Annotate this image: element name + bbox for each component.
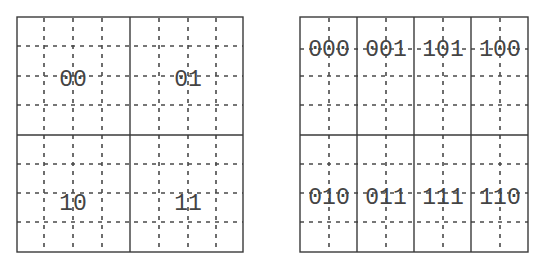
left-cell-label: 11 xyxy=(174,191,202,217)
left-cell-label: 10 xyxy=(59,191,87,217)
diagram-canvas: 00 01 10 11 000 001 101 100 010 011 111 xyxy=(0,0,540,268)
right-cell-label: 001 xyxy=(365,37,406,63)
right-cell-label: 110 xyxy=(479,185,520,211)
left-map: 00 01 10 11 xyxy=(17,17,243,252)
right-cell-label: 010 xyxy=(308,185,349,211)
right-cell-label: 100 xyxy=(479,37,520,63)
left-cell-label: 01 xyxy=(174,67,202,93)
right-cell-label: 011 xyxy=(365,185,406,211)
right-cell-label: 101 xyxy=(422,37,463,63)
right-map: 000 001 101 100 010 011 111 110 xyxy=(300,17,528,252)
right-cell-label: 000 xyxy=(308,37,349,63)
left-cell-label: 00 xyxy=(59,67,87,93)
right-cell-label: 111 xyxy=(422,185,463,211)
